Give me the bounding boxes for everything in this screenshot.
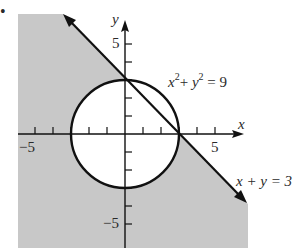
x-axis-label: x xyxy=(237,116,245,132)
x-tick-label-5: 5 xyxy=(211,139,219,155)
line-equation-label: x + y = 3 xyxy=(235,173,292,189)
circle-equation-label: x2+ y2 = 9 xyxy=(167,71,227,90)
y-axis-label: y xyxy=(110,11,119,27)
graph-figure: • y x 5 −5 −5 5 x2+ y2 = 9 x + y = 3 xyxy=(0,0,307,248)
y-tick-label-5: 5 xyxy=(112,35,120,51)
y-tick-label-neg5: −5 xyxy=(103,215,119,231)
bullet-mark: • xyxy=(0,3,6,20)
x-tick-label-neg5: −5 xyxy=(19,139,35,155)
